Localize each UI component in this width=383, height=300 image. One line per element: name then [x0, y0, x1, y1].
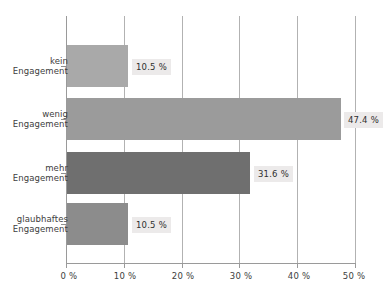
category-label-mehr-engagement: mehr Engagement — [0, 163, 68, 183]
category-label-line-1: kein — [0, 56, 68, 66]
category-label-line-2: Engagement — [0, 224, 68, 234]
bar-glaubhaftes-engagement — [67, 203, 128, 245]
x-tick-mark-20 — [182, 263, 183, 268]
bar-kein-engagement — [67, 45, 128, 87]
x-tick-mark-30 — [239, 263, 240, 268]
gridline-50 — [355, 16, 356, 263]
category-label-wenig-engagement: wenig Engagement — [0, 109, 68, 129]
x-tick-mark-10 — [124, 263, 125, 268]
x-tick-label-20: 20 % — [158, 271, 208, 281]
bar-value-label-3: 10.5 % — [132, 217, 171, 233]
bar-mehr-engagement — [67, 152, 250, 194]
x-tick-label-0: 0 % — [44, 271, 94, 281]
x-tick-mark-0 — [66, 263, 67, 268]
bar-value-label-1: 47.4 % — [344, 112, 383, 128]
category-label-line-1: glaubhaftes — [0, 214, 68, 224]
bar-value-label-0: 10.5 % — [132, 59, 171, 75]
category-label-line-2: Engagement — [0, 173, 68, 183]
category-label-line-1: wenig — [0, 109, 68, 119]
x-tick-label-40: 40 % — [274, 271, 324, 281]
category-label-kein-engagement: kein Engagement — [0, 56, 68, 76]
x-tick-label-10: 10 % — [100, 271, 150, 281]
x-tick-mark-50 — [355, 263, 356, 268]
bar-value-label-2: 31.6 % — [254, 166, 293, 182]
category-label-line-1: mehr — [0, 163, 68, 173]
category-label-line-2: Engagement — [0, 66, 68, 76]
category-label-glaubhaftes-engagement: glaubhaftes Engagement — [0, 214, 68, 234]
x-tick-label-50: 50 % — [329, 271, 379, 281]
bar-wenig-engagement — [67, 98, 341, 140]
category-label-line-2: Engagement — [0, 119, 68, 129]
x-tick-mark-40 — [297, 263, 298, 268]
x-tick-label-30: 30 % — [216, 271, 266, 281]
x-axis-line — [66, 263, 356, 264]
